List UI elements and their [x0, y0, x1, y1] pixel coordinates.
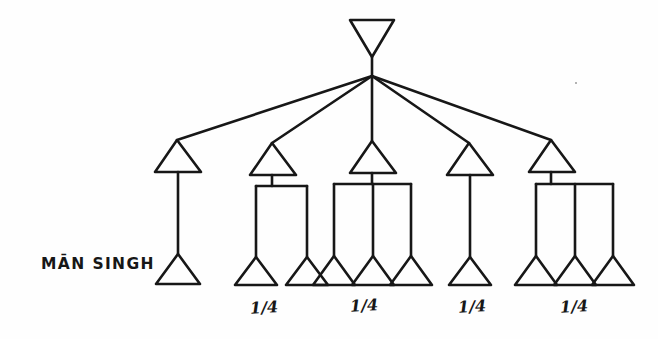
scan-artifact-speck [575, 82, 577, 84]
descent-line-to-g2-son-5 [372, 76, 551, 140]
g3-child-5-triangle [352, 256, 394, 285]
g3-child-7-triangle [449, 257, 491, 285]
descent-line-to-g2-son-4 [372, 76, 469, 143]
kinship-diagram [0, 0, 658, 339]
g2-son-4-triangle [447, 143, 493, 175]
g3-child-10-triangle [592, 256, 634, 285]
g2-son-3-triangle [350, 141, 396, 173]
share-label-group-4: 1/4 [458, 296, 487, 316]
g3-child-8-triangle [515, 256, 557, 285]
apex-female-inverted-triangle [350, 20, 394, 57]
g2-son-1-triangle [155, 140, 201, 172]
g2-son-2-triangle [250, 143, 296, 175]
g3-child-1-triangle-ego [156, 254, 200, 284]
ego-label-man-singh: MĀN SINGH [41, 255, 155, 273]
descent-line-to-g2-son-1 [177, 76, 372, 140]
g3-child-4-triangle [313, 256, 355, 285]
g3-child-2-triangle [235, 257, 277, 285]
g3-child-6-triangle [390, 256, 432, 285]
share-label-group-5: 1/4 [560, 296, 589, 316]
g2-son-5-triangle [529, 140, 575, 172]
figure-canvas: MĀN SINGH 1/4 1/4 1/4 1/4 [0, 0, 658, 339]
g3-child-9-triangle [554, 256, 596, 285]
descent-line-to-g2-son-2 [272, 76, 372, 143]
share-label-group-3: 1/4 [350, 295, 379, 315]
share-label-group-2: 1/4 [250, 297, 279, 317]
